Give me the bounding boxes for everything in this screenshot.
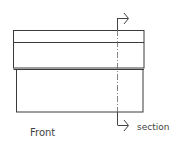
lower-block [17,70,144,113]
section-arrow-top-icon [118,13,129,24]
upper-block [14,31,145,69]
front-view-drawing: section Front [0,0,172,151]
section-arrow-bottom-icon [118,120,129,131]
front-view-label: Front [30,127,55,138]
section-label: section [137,122,169,132]
